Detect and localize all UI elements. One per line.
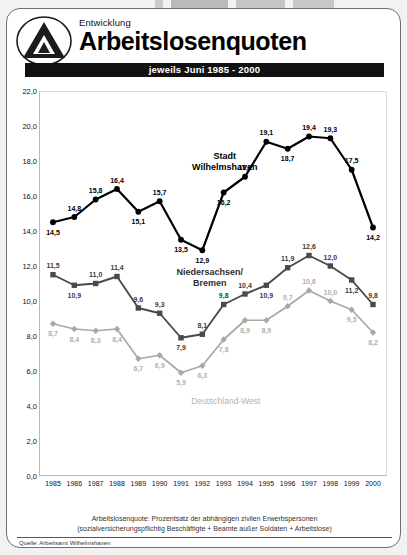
series-marker bbox=[263, 139, 269, 145]
data-label: 9,7 bbox=[283, 293, 293, 300]
series-marker bbox=[285, 265, 290, 270]
series-marker bbox=[264, 283, 269, 288]
series-annotation: Niedersachsen/Bremen bbox=[177, 267, 244, 289]
data-label: 17,5 bbox=[345, 157, 359, 164]
data-label: 5,9 bbox=[176, 379, 186, 386]
y-axis-tick: 18,0 bbox=[9, 157, 37, 166]
y-axis: 0,02,04,06,08,010,012,014,016,018,020,02… bbox=[7, 91, 37, 476]
series-marker bbox=[136, 305, 141, 310]
data-label: 19,1 bbox=[260, 129, 274, 136]
series-marker bbox=[306, 253, 311, 258]
x-axis: 1985198619871988198919901991199219931994… bbox=[39, 478, 387, 492]
header: Entwicklung Arbeitslosenquoten jeweils J… bbox=[7, 9, 401, 77]
data-label: 6,7 bbox=[133, 365, 143, 372]
data-label: 8,1 bbox=[197, 321, 207, 328]
x-axis-tick: 1989 bbox=[131, 480, 147, 487]
series-marker bbox=[71, 214, 77, 220]
data-label: 9,5 bbox=[347, 316, 357, 323]
y-axis-tick: 22,0 bbox=[9, 87, 37, 96]
series-annotation: StadtWilhelmshaven bbox=[192, 151, 257, 173]
source-text: Quelle: Arbeitsamt Wilhelmshaven bbox=[19, 540, 110, 546]
data-label: 9,8 bbox=[368, 292, 378, 299]
y-axis-tick: 4,0 bbox=[9, 402, 37, 411]
data-label: 15,7 bbox=[153, 188, 167, 195]
data-label: 11,4 bbox=[110, 264, 123, 271]
data-label: 10,6 bbox=[302, 278, 316, 285]
series-marker bbox=[285, 146, 291, 152]
data-label: 8,9 bbox=[240, 326, 250, 333]
data-label: 8,4 bbox=[112, 335, 122, 342]
x-axis-tick: 1988 bbox=[109, 480, 125, 487]
series-marker bbox=[114, 274, 119, 279]
footer-divider bbox=[17, 537, 392, 538]
series-marker bbox=[221, 190, 227, 196]
series-marker bbox=[114, 186, 120, 192]
series-marker bbox=[92, 328, 98, 334]
data-label: 16,2 bbox=[217, 199, 231, 206]
y-axis-tick: 0,0 bbox=[9, 472, 37, 481]
x-axis-tick: 1999 bbox=[344, 480, 360, 487]
series-marker bbox=[327, 298, 333, 304]
series-marker bbox=[349, 277, 354, 282]
series-marker bbox=[93, 281, 98, 286]
data-label: 10,0 bbox=[324, 288, 338, 295]
series-marker bbox=[93, 197, 99, 203]
data-label: 14,8 bbox=[68, 204, 82, 211]
x-axis-tick: 1995 bbox=[259, 480, 275, 487]
series-marker bbox=[157, 198, 163, 204]
data-label: 8,2 bbox=[368, 339, 378, 346]
data-label: 12,0 bbox=[324, 253, 338, 260]
series-marker bbox=[242, 174, 248, 180]
footnote-line-2: (sozialversicherungspflichtig Beschäftig… bbox=[25, 524, 384, 534]
data-label: 7,8 bbox=[219, 346, 229, 353]
series-marker bbox=[327, 135, 333, 141]
data-label: 6,9 bbox=[155, 361, 165, 368]
y-axis-tick: 12,0 bbox=[9, 262, 37, 271]
page-title: Arbeitslosenquoten bbox=[79, 29, 307, 54]
data-label: 9,6 bbox=[133, 295, 143, 302]
data-label: 15,8 bbox=[89, 187, 103, 194]
x-axis-tick: 1996 bbox=[280, 480, 296, 487]
x-axis-tick: 1994 bbox=[237, 480, 253, 487]
data-label: 11,2 bbox=[345, 286, 358, 293]
data-label: 11,9 bbox=[281, 255, 294, 262]
series-marker bbox=[306, 134, 312, 140]
y-axis-tick: 16,0 bbox=[9, 192, 37, 201]
series-marker bbox=[178, 237, 184, 243]
y-axis-tick: 10,0 bbox=[9, 297, 37, 306]
y-axis-tick: 8,0 bbox=[9, 332, 37, 341]
series-marker bbox=[157, 311, 162, 316]
series-marker bbox=[221, 302, 226, 307]
data-label: 11,5 bbox=[46, 262, 59, 269]
data-label: 19,4 bbox=[302, 124, 316, 131]
series-marker bbox=[72, 283, 77, 288]
x-axis-tick: 1997 bbox=[301, 480, 317, 487]
series-marker bbox=[200, 332, 205, 337]
series-marker bbox=[328, 263, 333, 268]
footnote: Arbeitslosenquote: Prozentsatz der abhän… bbox=[25, 514, 384, 534]
data-label: 18,7 bbox=[281, 155, 295, 162]
triangle-a-logo-icon bbox=[15, 15, 73, 67]
y-axis-tick: 20,0 bbox=[9, 122, 37, 131]
data-label: 8,9 bbox=[261, 326, 271, 333]
data-label: 9,8 bbox=[219, 292, 229, 299]
series-line bbox=[53, 291, 373, 373]
data-label: 19,3 bbox=[324, 125, 338, 132]
data-label: 10,9 bbox=[68, 291, 82, 298]
data-label: 16,4 bbox=[110, 176, 124, 183]
series-marker bbox=[370, 302, 375, 307]
x-axis-tick: 1990 bbox=[152, 480, 168, 487]
series-marker bbox=[71, 326, 77, 332]
line-chart: 0,02,04,06,08,010,012,014,016,018,020,02… bbox=[7, 81, 401, 509]
y-axis-tick: 14,0 bbox=[9, 227, 37, 236]
data-label: 11,0 bbox=[89, 271, 102, 278]
data-label: 7,9 bbox=[176, 344, 186, 351]
x-axis-tick: 1991 bbox=[173, 480, 189, 487]
x-axis-tick: 1993 bbox=[216, 480, 232, 487]
subtitle-band: jeweils Juni 1985 - 2000 bbox=[25, 63, 384, 77]
data-label: 13,5 bbox=[174, 246, 188, 253]
series-marker bbox=[135, 209, 141, 215]
footnote-line-1: Arbeitslosenquote: Prozentsatz der abhän… bbox=[25, 514, 384, 524]
data-label: 8,7 bbox=[48, 330, 58, 337]
y-axis-tick: 2,0 bbox=[9, 437, 37, 446]
